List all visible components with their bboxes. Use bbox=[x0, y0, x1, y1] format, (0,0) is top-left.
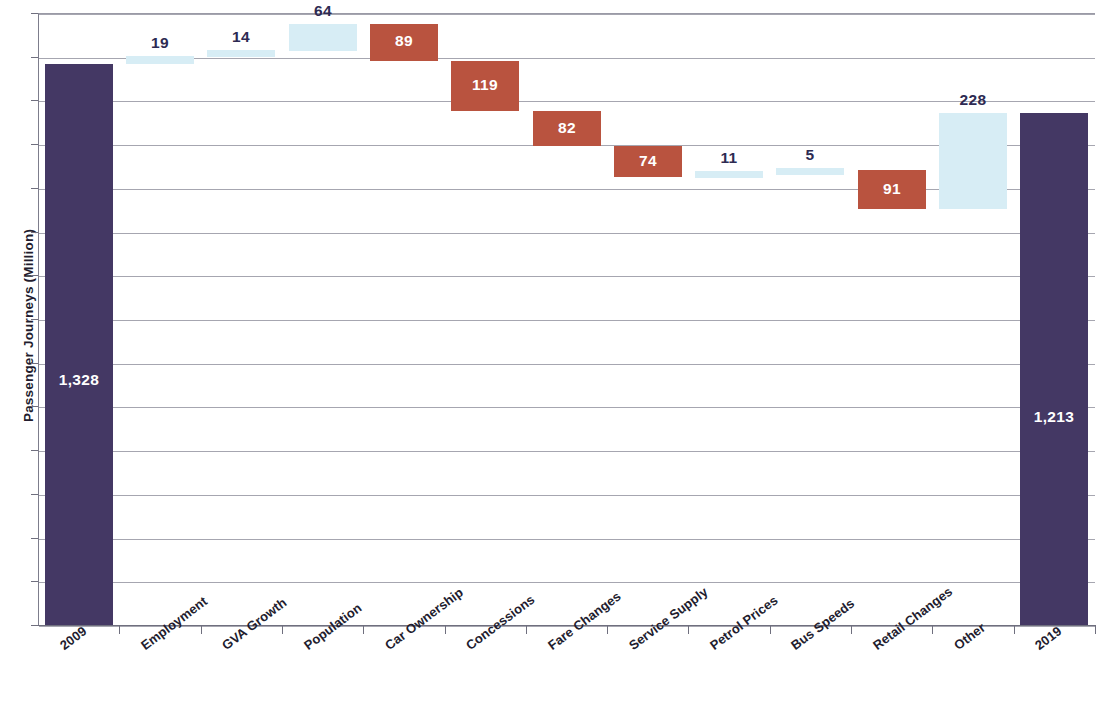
x-axis-tick bbox=[201, 625, 202, 634]
x-axis-tick bbox=[363, 625, 364, 634]
y-axis-title: Passenger Journeys (Million) bbox=[21, 186, 36, 466]
bar-petrol-prices bbox=[695, 171, 763, 178]
y-axis-tick bbox=[31, 581, 38, 582]
x-axis-tick bbox=[932, 625, 933, 634]
bar-value-label: 5 bbox=[756, 146, 864, 164]
x-axis-label-2009: 2009 bbox=[57, 623, 89, 653]
bar-2009 bbox=[45, 64, 113, 625]
y-axis-tick bbox=[31, 319, 38, 320]
y-axis-tick bbox=[31, 450, 38, 451]
x-axis-tick bbox=[445, 625, 446, 634]
bar-bus-speeds bbox=[776, 168, 844, 175]
x-axis-tick bbox=[1095, 625, 1096, 634]
x-axis-tick bbox=[851, 625, 852, 634]
x-axis-tick bbox=[770, 625, 771, 634]
y-axis-tick bbox=[31, 494, 38, 495]
y-axis-tick bbox=[31, 100, 38, 101]
gridline bbox=[39, 626, 1095, 627]
x-axis-label-2019: 2019 bbox=[1032, 623, 1064, 653]
x-axis-tick bbox=[119, 625, 120, 634]
gridline bbox=[39, 539, 1095, 540]
bar-value-label: 89 bbox=[350, 32, 458, 50]
x-axis-tick bbox=[1014, 625, 1015, 634]
gridline bbox=[39, 14, 1095, 15]
bar-value-label: 64 bbox=[269, 2, 377, 20]
y-axis-tick bbox=[31, 363, 38, 364]
x-axis-line bbox=[38, 625, 1095, 626]
bar-population bbox=[289, 24, 357, 51]
y-axis-tick bbox=[31, 275, 38, 276]
bar-2019 bbox=[1020, 113, 1088, 625]
y-axis-tick bbox=[31, 538, 38, 539]
y-axis-tick bbox=[31, 406, 38, 407]
bar-value-label: 119 bbox=[431, 76, 539, 94]
gridline bbox=[39, 276, 1095, 277]
bar-value-label: 1,213 bbox=[1000, 408, 1100, 426]
gridline bbox=[39, 451, 1095, 452]
bar-other bbox=[939, 113, 1007, 209]
y-axis-tick bbox=[31, 625, 38, 626]
y-axis-tick bbox=[31, 144, 38, 145]
bar-value-label: 91 bbox=[838, 180, 946, 198]
bar-value-label: 228 bbox=[919, 91, 1027, 109]
gridline bbox=[39, 582, 1095, 583]
bar-gva-growth bbox=[207, 50, 275, 57]
y-axis-tick bbox=[31, 13, 38, 14]
x-axis-tick bbox=[526, 625, 527, 634]
y-axis-tick bbox=[31, 188, 38, 189]
y-axis-tick bbox=[31, 57, 38, 58]
x-axis-tick bbox=[282, 625, 283, 634]
gridline bbox=[39, 407, 1095, 408]
x-axis-tick bbox=[688, 625, 689, 634]
bar-value-label: 82 bbox=[513, 119, 621, 137]
gridline bbox=[39, 495, 1095, 496]
bar-employment bbox=[126, 56, 194, 64]
bar-value-label: 14 bbox=[187, 28, 295, 46]
bar-value-label: 1,328 bbox=[25, 371, 133, 389]
gridline bbox=[39, 320, 1095, 321]
gridline bbox=[39, 233, 1095, 234]
gridline bbox=[39, 58, 1095, 59]
gridline bbox=[39, 364, 1095, 365]
y-axis-tick bbox=[31, 232, 38, 233]
x-axis-tick bbox=[607, 625, 608, 634]
